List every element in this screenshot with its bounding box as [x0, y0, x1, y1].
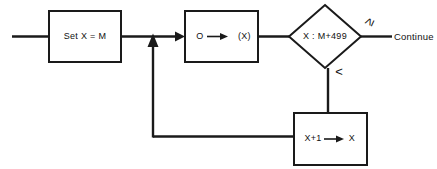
- node-zero-store[interactable]: O (X): [185, 11, 258, 62]
- node-increment[interactable]: X+1 X: [294, 113, 367, 165]
- zero-box-label-left: O: [196, 31, 203, 41]
- zero-box-label-right: (X): [238, 31, 251, 41]
- decision-label: X : M+499: [303, 31, 347, 41]
- node-decision[interactable]: X : M+499: [289, 5, 361, 68]
- branch-greater-equal: ≥ Continue: [361, 15, 434, 41]
- branch-less-than: <: [328, 64, 343, 113]
- branch-label-less-than: <: [335, 64, 343, 79]
- node-set-x[interactable]: Set X = M: [49, 11, 121, 62]
- increment-box-label-left: X+1: [304, 133, 321, 143]
- arrowhead-into-zero-box: [175, 32, 185, 42]
- flowchart-canvas: Set X = M O (X) X : M+499: [0, 0, 437, 169]
- increment-box-label-right: X: [349, 133, 355, 143]
- continue-label: Continue: [394, 31, 434, 42]
- branch-label-greater-equal: ≥: [361, 15, 378, 28]
- set-box-label: Set X = M: [64, 31, 106, 41]
